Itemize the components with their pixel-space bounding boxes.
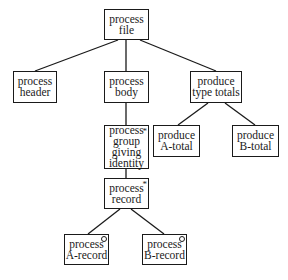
node-label: process group giving identity (109, 125, 144, 169)
node-produce-b-total: produce B-total (232, 125, 279, 157)
node-label: process record (109, 183, 144, 205)
node-label: produce A-total (158, 130, 195, 152)
selection-marker-icon (101, 236, 107, 242)
node-label: process header (18, 76, 53, 98)
edge-process-record-to-process-b-record (131, 209, 164, 234)
edge-produce-type-totals-to-produce-b-total (225, 103, 255, 125)
selection-marker-icon (179, 236, 185, 242)
node-label: process file (109, 14, 144, 36)
node-produce-a-total: produce A-total (153, 125, 200, 157)
node-process-b-record: process B-record (142, 234, 187, 265)
edge-produce-type-totals-to-produce-a-total (178, 103, 208, 125)
node-produce-type-totals: produce type totals (190, 71, 242, 103)
edge-process-record-to-process-a-record (88, 209, 120, 234)
node-label: process B-record (144, 239, 185, 261)
iteration-marker-icon: * (143, 127, 148, 136)
node-process-body: process body (104, 71, 149, 103)
node-process-record: process record * (104, 178, 149, 209)
node-process-header: process header (13, 71, 57, 103)
node-label: produce type totals (192, 76, 240, 98)
edge-process-file-to-process-header (35, 40, 118, 71)
node-process-group-giving-identity: process group giving identity * (104, 125, 149, 169)
edge-process-file-to-produce-type-totals (140, 40, 216, 71)
node-process-a-record: process A-record (64, 234, 109, 265)
node-process-file: process file (104, 9, 149, 40)
node-label: produce B-total (237, 130, 274, 152)
node-label: process A-record (66, 239, 108, 261)
iteration-marker-icon: * (143, 180, 148, 189)
node-label: process body (109, 76, 144, 98)
